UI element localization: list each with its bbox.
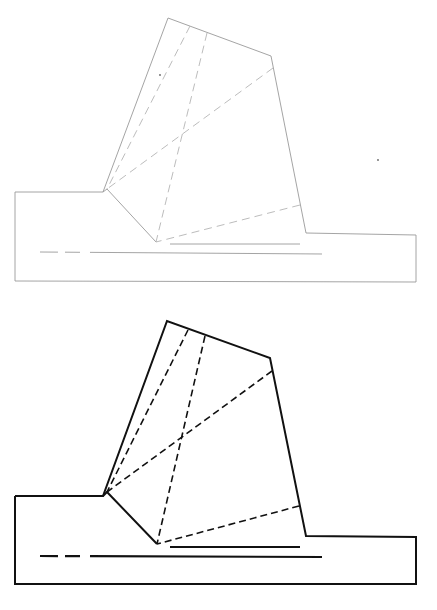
dashed-construction-line bbox=[157, 336, 205, 544]
figure-caption bbox=[60, 603, 380, 610]
speck-mark bbox=[159, 74, 161, 76]
dashed-construction-line bbox=[156, 33, 207, 242]
base-line bbox=[40, 556, 322, 557]
speck-mark bbox=[377, 159, 379, 161]
sketch-specks bbox=[159, 74, 379, 161]
dashed-construction-line bbox=[107, 26, 190, 189]
sketch-outline bbox=[15, 18, 416, 282]
dashed-construction-line bbox=[156, 205, 300, 242]
final-underlines bbox=[40, 547, 322, 557]
base-line bbox=[40, 252, 322, 254]
dashed-construction-line bbox=[107, 371, 272, 492]
pencil-sketch-diagram bbox=[0, 0, 437, 300]
final-outline bbox=[15, 321, 416, 584]
dashed-construction-line bbox=[107, 68, 273, 189]
final-notch bbox=[103, 492, 157, 544]
inked-diagram bbox=[0, 300, 437, 610]
sketch-notch bbox=[103, 189, 156, 242]
sketch-svg bbox=[0, 0, 437, 300]
dashed-construction-line bbox=[107, 330, 188, 492]
dashed-construction-line bbox=[157, 506, 299, 544]
sketch-underlines bbox=[40, 244, 322, 254]
final-svg bbox=[0, 300, 437, 610]
